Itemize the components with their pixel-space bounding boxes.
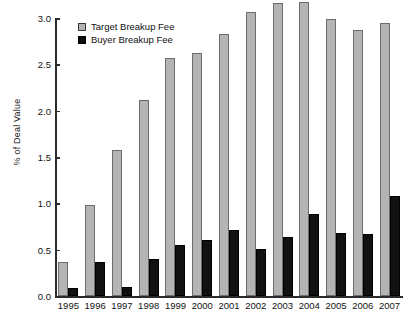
legend-item-buyer: Buyer Breakup Fee — [78, 34, 174, 45]
x-axis-tick-label: 2004 — [296, 300, 323, 311]
bar-target-breakup-fee — [85, 205, 95, 296]
bar-buyer-breakup-fee — [149, 259, 159, 296]
x-axis-tick-label: 1999 — [162, 300, 189, 311]
bar-buyer-breakup-fee — [256, 249, 266, 296]
bar-buyer-breakup-fee — [390, 196, 400, 296]
bar-group — [323, 18, 350, 296]
bar-buyer-breakup-fee — [229, 230, 239, 296]
x-axis-tick-label: 1995 — [55, 300, 82, 311]
bar-buyer-breakup-fee — [122, 287, 132, 296]
bar-buyer-breakup-fee — [363, 234, 373, 296]
legend-label-target: Target Breakup Fee — [91, 21, 174, 32]
bar-target-breakup-fee — [299, 2, 309, 296]
bar-group — [216, 18, 243, 296]
bar-buyer-breakup-fee — [283, 237, 293, 296]
legend-label-buyer: Buyer Breakup Fee — [91, 34, 173, 45]
legend-swatch-target-icon — [78, 23, 86, 31]
x-axis-tick-label: 1998 — [135, 300, 162, 311]
bar-target-breakup-fee — [139, 100, 149, 296]
bar-target-breakup-fee — [165, 58, 175, 296]
bar-group — [189, 18, 216, 296]
x-axis-tick-labels: 1995199619971998199920002001200220032004… — [55, 300, 403, 311]
bar-target-breakup-fee — [353, 30, 363, 296]
bar-group — [242, 18, 269, 296]
y-axis-tick-mark — [55, 64, 60, 66]
breakup-fee-bar-chart: % of Deal Value 0.00.51.01.52.02.53.0 19… — [0, 0, 412, 330]
y-axis-tick-label: 2.0 — [38, 105, 51, 116]
x-axis-tick-label: 2006 — [349, 300, 376, 311]
x-axis-tick-label: 2003 — [269, 300, 296, 311]
chart-legend: Target Breakup Fee Buyer Breakup Fee — [78, 21, 174, 47]
bar-group-container — [55, 18, 403, 296]
bar-target-breakup-fee — [192, 53, 202, 296]
bar-target-breakup-fee — [246, 12, 256, 296]
bar-group — [109, 18, 136, 296]
x-axis-tick-label: 1997 — [109, 300, 136, 311]
bar-group — [82, 18, 109, 296]
y-axis-tick-mark — [55, 296, 60, 298]
bar-buyer-breakup-fee — [202, 240, 212, 296]
y-axis-tick-mark — [55, 203, 60, 205]
bar-group — [376, 18, 403, 296]
bar-target-breakup-fee — [58, 262, 68, 296]
legend-swatch-buyer-icon — [78, 36, 86, 44]
y-axis-tick-mark — [55, 111, 60, 113]
bar-buyer-breakup-fee — [309, 214, 319, 296]
bar-group — [162, 18, 189, 296]
bar-group — [349, 18, 376, 296]
bar-group — [135, 18, 162, 296]
bar-target-breakup-fee — [273, 3, 283, 296]
bar-target-breakup-fee — [219, 34, 229, 296]
x-axis-line — [55, 296, 403, 298]
bar-buyer-breakup-fee — [95, 262, 105, 296]
y-axis-tick-label: 0.5 — [38, 244, 51, 255]
x-axis-tick-label: 2007 — [376, 300, 403, 311]
bar-buyer-breakup-fee — [175, 245, 185, 296]
y-axis-title: % of Deal Value — [12, 82, 22, 182]
bar-target-breakup-fee — [326, 19, 336, 296]
y-axis-tick-mark — [55, 157, 60, 159]
bar-buyer-breakup-fee — [336, 233, 346, 296]
x-axis-tick-label: 2005 — [323, 300, 350, 311]
bar-target-breakup-fee — [380, 23, 390, 296]
x-axis-tick-label: 2002 — [242, 300, 269, 311]
y-axis-tick-label: 2.5 — [38, 59, 51, 70]
x-axis-tick-label: 2001 — [216, 300, 243, 311]
x-axis-tick-label: 1996 — [82, 300, 109, 311]
y-axis-tick-label: 1.0 — [38, 198, 51, 209]
y-axis-tick-mark — [55, 18, 60, 20]
y-axis-tick-label: 0.0 — [38, 291, 51, 302]
bar-target-breakup-fee — [112, 150, 122, 296]
bar-buyer-breakup-fee — [68, 288, 78, 296]
y-axis-tick-label: 3.0 — [38, 13, 51, 24]
bar-group — [269, 18, 296, 296]
y-axis-tick-label: 1.5 — [38, 152, 51, 163]
legend-item-target: Target Breakup Fee — [78, 21, 174, 32]
bar-group — [296, 18, 323, 296]
x-axis-tick-label: 2000 — [189, 300, 216, 311]
y-axis-tick-mark — [55, 250, 60, 252]
